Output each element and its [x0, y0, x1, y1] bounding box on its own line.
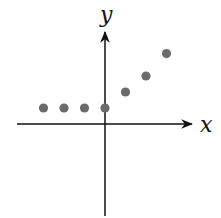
y-axis-label: y: [99, 2, 113, 27]
data-point: [121, 87, 130, 96]
data-point: [59, 103, 68, 112]
data-point: [100, 103, 109, 112]
scatter-chart: x y: [0, 0, 221, 218]
x-axis-label: x: [200, 112, 213, 137]
data-point: [80, 103, 89, 112]
data-point: [141, 71, 150, 80]
data-point: [162, 49, 171, 58]
data-point: [39, 103, 48, 112]
